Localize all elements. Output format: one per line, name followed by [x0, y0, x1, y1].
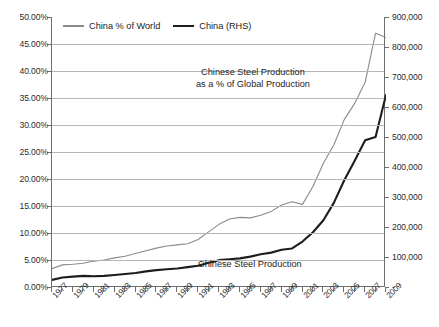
- right-axis-tick-label: 500,000: [392, 132, 422, 142]
- right-axis-tick-label: 100,000: [392, 252, 422, 262]
- right-axis-tick: [385, 17, 389, 18]
- legend-label-china-rhs: China (RHS): [199, 21, 251, 31]
- annotation-line-1: Chinese Steel Production: [198, 258, 302, 270]
- left-axis-tick-label: 15.00%: [19, 201, 48, 211]
- x-axis-tick: [82, 287, 83, 292]
- right-axis-tick-label: 700,000: [392, 72, 422, 82]
- x-axis-tick: [145, 287, 146, 292]
- left-axis-tick-label: 20.00%: [19, 174, 48, 184]
- x-axis-tick-label: 2009: [384, 280, 404, 300]
- percent-series-annotation: Chinese Steel Production as a % of Globa…: [196, 66, 310, 90]
- x-axis-tick: [208, 287, 209, 292]
- absolute-series-annotation: Chinese Steel Production: [198, 258, 302, 270]
- x-axis-tick: [333, 287, 334, 292]
- right-axis-tick-label: 800,000: [392, 42, 422, 52]
- right-axis-tick-label: 600,000: [392, 102, 422, 112]
- right-axis-tick: [385, 47, 389, 48]
- x-axis-tick: [228, 287, 229, 292]
- series-line-china-rhs: [52, 95, 386, 280]
- chart-legend: China % of World China (RHS): [63, 21, 251, 31]
- x-axis-tick: [103, 287, 104, 292]
- right-axis-tick-label: 900,000: [392, 12, 422, 22]
- gridline: [52, 233, 384, 234]
- gridline: [52, 152, 384, 153]
- right-axis-tick-label: 400,000: [392, 162, 422, 172]
- right-axis-tick: [385, 257, 389, 258]
- x-axis-tick: [375, 287, 376, 292]
- figure-caption: [0, 316, 439, 327]
- x-axis-tick: [166, 287, 167, 292]
- gridline: [52, 44, 384, 45]
- x-axis-tick: [354, 287, 355, 292]
- right-axis-tick-label: 300,000: [392, 192, 422, 202]
- gridline: [52, 125, 384, 126]
- right-axis-tick: [385, 77, 389, 78]
- gridline: [52, 98, 384, 99]
- legend-item-china-pct-of-world: China % of World: [63, 21, 160, 31]
- gridline: [52, 179, 384, 180]
- left-axis-tick-label: 50.00%: [19, 12, 48, 22]
- right-axis-tick-label: 200,000: [392, 222, 422, 232]
- left-axis-tick-label: 30.00%: [19, 120, 48, 130]
- left-axis-tick-label: 25.00%: [19, 147, 48, 157]
- left-axis-tick-label: 45.00%: [19, 39, 48, 49]
- x-axis-tick: [270, 287, 271, 292]
- x-axis-tick: [312, 287, 313, 292]
- annotation-line-1: Chinese Steel Production: [196, 66, 310, 78]
- left-axis-tick-label: 0.00%: [24, 282, 48, 292]
- gridline: [52, 206, 384, 207]
- plot-area: [51, 17, 385, 287]
- left-axis-tick-label: 5.00%: [24, 255, 48, 265]
- x-axis-tick: [249, 287, 250, 292]
- x-axis-tick: [291, 287, 292, 292]
- chart-container: 0.00%5.00%10.00%15.00%20.00%25.00%30.00%…: [0, 0, 439, 327]
- right-axis-tick: [385, 137, 389, 138]
- left-axis-tick-label: 40.00%: [19, 66, 48, 76]
- x-axis-tick: [61, 287, 62, 292]
- left-axis-tick-label: 35.00%: [19, 93, 48, 103]
- x-axis-tick: [124, 287, 125, 292]
- right-axis-tick: [385, 227, 389, 228]
- left-axis-tick-label: 10.00%: [19, 228, 48, 238]
- legend-label-china-pct-of-world: China % of World: [89, 21, 160, 31]
- annotation-line-2: as a % of Global Production: [196, 78, 310, 90]
- right-axis-tick: [385, 167, 389, 168]
- right-axis-tick: [385, 197, 389, 198]
- right-axis-tick: [385, 107, 389, 108]
- legend-swatch-line-icon: [173, 25, 194, 28]
- x-axis-tick: [187, 287, 188, 292]
- legend-item-china-rhs: China (RHS): [173, 21, 251, 31]
- legend-swatch-line-icon: [63, 25, 84, 27]
